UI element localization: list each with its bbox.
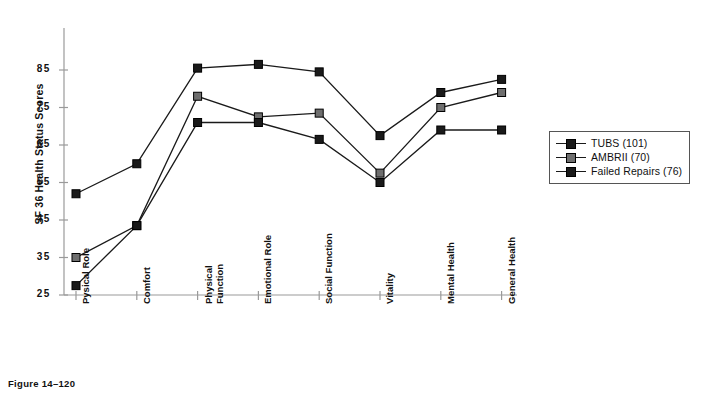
data-point-marker — [254, 60, 262, 68]
legend-line-marker-icon — [556, 166, 586, 176]
data-point-marker — [376, 132, 384, 140]
x-tick-label: Pysical Role — [80, 248, 91, 304]
x-tick-label: Emotional Role — [262, 235, 273, 304]
data-point-marker — [437, 89, 445, 97]
data-point-marker — [376, 169, 384, 177]
data-point-marker — [315, 68, 323, 76]
data-point-marker — [315, 135, 323, 143]
x-tick-label: Vitality — [384, 273, 395, 304]
x-tick-label: Comfort — [141, 267, 152, 304]
data-point-marker — [194, 119, 202, 127]
x-tick-label: General Health — [506, 237, 517, 304]
x-tick-label: Social Function — [323, 233, 334, 304]
data-point-marker — [72, 254, 80, 262]
data-point-marker — [194, 64, 202, 72]
legend-swatch-2 — [566, 167, 576, 177]
legend-line-marker-icon — [556, 152, 586, 162]
data-point-marker — [72, 282, 80, 290]
series-line-2 — [76, 123, 502, 286]
legend-swatch-0 — [566, 139, 576, 149]
y-tick-label: 65 — [17, 138, 51, 149]
data-point-marker — [498, 75, 506, 83]
legend-item: TUBS (101) — [556, 136, 682, 150]
data-point-marker — [498, 126, 506, 134]
legend-label-1: AMBRII (70) — [591, 151, 650, 163]
legend-label-0: TUBS (101) — [591, 137, 647, 149]
x-tick-label: PhysicalFunction — [203, 234, 225, 304]
legend-line-marker-icon — [556, 138, 586, 148]
y-tick-label: 85 — [17, 63, 51, 74]
data-point-marker — [376, 179, 384, 187]
y-tick-label: 55 — [17, 176, 51, 187]
y-tick-label: 45 — [17, 213, 51, 224]
y-tick-label: 25 — [17, 288, 51, 299]
data-point-marker — [133, 160, 141, 168]
data-point-marker — [194, 92, 202, 100]
figure-caption: Figure 14–120 — [8, 378, 75, 389]
data-point-marker — [254, 119, 262, 127]
series-line-1 — [76, 93, 502, 258]
data-point-marker — [437, 104, 445, 112]
line-chart-plot — [0, 0, 701, 399]
legend-label-2: Failed Repairs (76) — [591, 165, 682, 177]
chart-legend: TUBS (101) AMBRII (70) Failed Repairs (7… — [549, 131, 690, 184]
legend-item: Failed Repairs (76) — [556, 164, 682, 178]
data-point-marker — [315, 109, 323, 117]
data-point-marker — [437, 126, 445, 134]
y-tick-label: 75 — [17, 101, 51, 112]
data-point-marker — [498, 89, 506, 97]
legend-swatch-1 — [566, 153, 576, 163]
data-point-marker — [72, 190, 80, 198]
data-point-marker — [133, 222, 141, 230]
y-tick-label: 35 — [17, 251, 51, 262]
legend-item: AMBRII (70) — [556, 150, 682, 164]
x-tick-label: Mental Health — [445, 242, 456, 304]
figure-chart: SF 36 Health Status Scores 2535455565758… — [0, 0, 701, 399]
